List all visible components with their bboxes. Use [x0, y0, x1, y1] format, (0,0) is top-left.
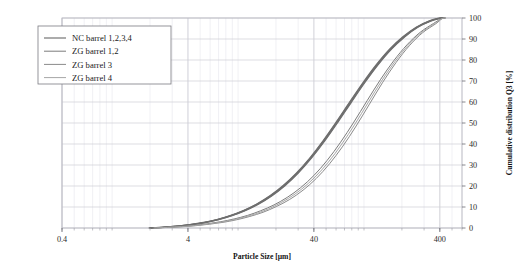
x-axis-title: Particle Size [µm] — [233, 252, 291, 261]
y-tick-label: 60 — [469, 98, 477, 107]
legend-label: NC barrel 1,2,3,4 — [72, 33, 133, 43]
y-tick-label: 100 — [469, 14, 481, 23]
legend-label: ZG barrel 4 — [72, 73, 113, 83]
y-tick-label: 80 — [469, 56, 477, 65]
legend-label: ZG barrel 1,2 — [72, 46, 119, 56]
y-tick-label: 40 — [469, 140, 477, 149]
y-tick-label: 10 — [469, 203, 477, 212]
x-tick-label: 0.4 — [57, 235, 67, 244]
y-axis-title: Cumulative distribution Q3 [%] — [505, 71, 514, 175]
x-tick-label: 4 — [186, 235, 190, 244]
chart-container: 0.4440400 0102030405060708090100 Particl… — [0, 0, 524, 269]
y-tick-label: 0 — [469, 224, 473, 233]
y-tick-label: 90 — [469, 35, 477, 44]
y-tick-label: 30 — [469, 161, 477, 170]
particle-size-distribution-chart: 0.4440400 0102030405060708090100 Particl… — [0, 0, 524, 269]
x-tick-label: 40 — [310, 235, 318, 244]
y-tick-label: 20 — [469, 182, 477, 191]
y-tick-label: 50 — [469, 119, 477, 128]
legend-label: ZG barrel 3 — [72, 60, 112, 70]
legend: NC barrel 1,2,3,4ZG barrel 1,2ZG barrel … — [38, 26, 171, 84]
x-tick-label: 400 — [434, 235, 446, 244]
y-tick-label: 70 — [469, 77, 477, 86]
